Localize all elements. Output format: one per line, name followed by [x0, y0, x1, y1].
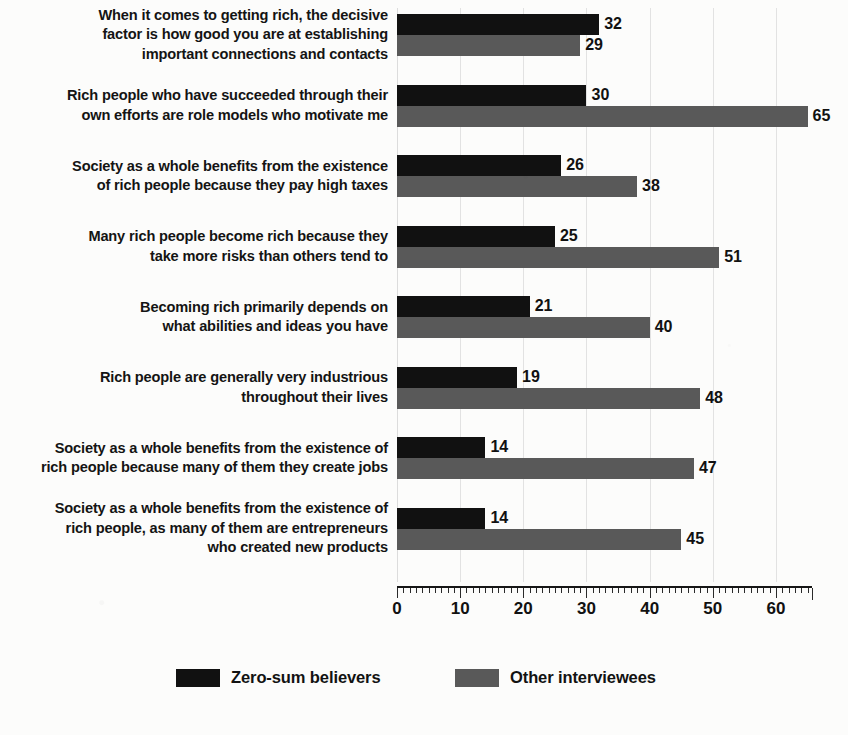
tick [789, 588, 790, 593]
tick [757, 588, 758, 593]
tick [429, 588, 430, 593]
tick [410, 588, 411, 593]
bar-value-label: 40 [655, 316, 673, 337]
tick [624, 588, 625, 593]
tick [618, 588, 619, 593]
tick [435, 588, 436, 593]
bar-other-interviewees [397, 317, 650, 338]
bar-value-label: 14 [490, 507, 508, 528]
tick [751, 588, 752, 593]
x-tick-label: 20 [514, 599, 533, 619]
x-tick-label: 40 [640, 599, 659, 619]
tick [549, 588, 550, 593]
category-label: Rich people who have succeeded through t… [12, 86, 388, 125]
tick [460, 588, 461, 598]
tick [448, 588, 449, 593]
tick [466, 588, 467, 593]
tick [568, 588, 569, 593]
bar-zero-sum-believers [397, 226, 555, 247]
tick [719, 588, 720, 593]
tick [662, 588, 663, 593]
legend-item[interactable]: Zero-sum believers [176, 668, 381, 687]
category-label: Rich people are generally very industrio… [12, 368, 388, 407]
tick [479, 588, 480, 593]
bar-other-interviewees [397, 529, 681, 550]
legend-item[interactable]: Other interviewees [455, 668, 656, 687]
bar-other-interviewees [397, 35, 580, 56]
tick [605, 588, 606, 593]
bar-zero-sum-believers [397, 155, 561, 176]
chart-legend: Zero-sum believersOther interviewees [0, 668, 848, 708]
bar-zero-sum-believers [397, 437, 485, 458]
bar-value-label: 47 [699, 457, 717, 478]
tick [782, 588, 783, 593]
tick [650, 588, 651, 598]
x-tick-label: 30 [577, 599, 596, 619]
bar-value-label: 51 [724, 246, 742, 267]
bar-value-label: 21 [535, 295, 553, 316]
tick [504, 588, 505, 593]
bar-value-label: 32 [604, 13, 622, 34]
bar-value-label: 30 [591, 84, 609, 105]
tick [523, 588, 524, 598]
tick [441, 588, 442, 593]
category-label: When it comes to getting rich, the decis… [12, 6, 388, 65]
bar-value-label: 26 [566, 154, 584, 175]
category-label: Becoming rich primarily depends on what … [12, 298, 388, 337]
bar-zero-sum-believers [397, 508, 485, 529]
tick [492, 588, 493, 593]
tick [454, 588, 455, 593]
tick [612, 588, 613, 593]
tick-end [812, 588, 813, 600]
x-axis: 0102030405060 [397, 586, 812, 632]
tick [688, 588, 689, 593]
x-tick-label: 10 [451, 599, 470, 619]
tick [593, 588, 594, 593]
bar-value-label: 45 [686, 528, 704, 549]
bar-chart: When it comes to getting rich, the decis… [0, 0, 848, 735]
tick [574, 588, 575, 593]
tick [776, 588, 777, 598]
x-tick-label: 0 [392, 599, 401, 619]
bar-group: When it comes to getting rich, the decis… [0, 14, 848, 58]
bar-other-interviewees [397, 106, 808, 127]
legend-label: Zero-sum believers [231, 668, 381, 687]
tick [694, 588, 695, 593]
category-label: Society as a whole benefits from the exi… [12, 499, 388, 558]
bar-other-interviewees [397, 247, 719, 268]
tick [473, 588, 474, 593]
tick [403, 588, 404, 593]
tick [669, 588, 670, 593]
legend-swatch-icon [176, 669, 220, 687]
bar-value-label: 48 [705, 387, 723, 408]
tick [542, 588, 543, 593]
tick [555, 588, 556, 593]
tick [536, 588, 537, 593]
tick [808, 588, 809, 593]
tick [681, 588, 682, 593]
bar-zero-sum-believers [397, 14, 599, 35]
tick [530, 588, 531, 593]
tick [586, 588, 587, 598]
tick [485, 588, 486, 593]
tick [631, 588, 632, 593]
tick [637, 588, 638, 593]
bar-zero-sum-believers [397, 367, 517, 388]
tick [795, 588, 796, 593]
bar-group: Society as a whole benefits from the exi… [0, 155, 848, 199]
bar-group: Rich people who have succeeded through t… [0, 85, 848, 129]
tick [675, 588, 676, 593]
bar-group: Society as a whole benefits from the exi… [0, 437, 848, 481]
tick [732, 588, 733, 593]
category-label: Many rich people become rich because the… [12, 227, 388, 266]
tick [511, 588, 512, 593]
tick [422, 588, 423, 593]
bar-rows: When it comes to getting rich, the decis… [0, 0, 848, 590]
tick [498, 588, 499, 593]
tick [397, 588, 398, 598]
tick [738, 588, 739, 593]
tick [416, 588, 417, 593]
tick [561, 588, 562, 593]
tick [744, 588, 745, 593]
bar-other-interviewees [397, 458, 694, 479]
